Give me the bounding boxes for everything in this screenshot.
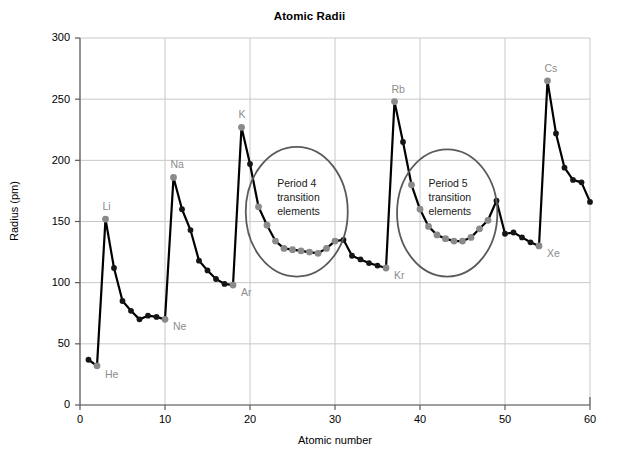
data-point: [332, 238, 339, 245]
data-point: [468, 234, 475, 241]
data-point: [417, 206, 424, 213]
chart-title: Atomic Radii: [0, 10, 619, 22]
element-label-cs: Cs: [545, 62, 558, 74]
annotation-text-line: transition: [429, 191, 472, 203]
x-tick-label: 0: [77, 413, 83, 425]
data-point: [570, 177, 576, 183]
data-point: [86, 357, 92, 363]
data-point: [298, 247, 305, 254]
y-tick-label: 250: [52, 93, 70, 105]
data-point: [128, 308, 134, 314]
element-label-ne: Ne: [173, 320, 187, 332]
data-point: [459, 238, 466, 245]
data-point: [485, 217, 492, 224]
data-point: [137, 316, 143, 322]
data-point: [230, 282, 237, 289]
data-point: [315, 250, 322, 257]
data-point: [102, 216, 109, 223]
data-point: [425, 223, 432, 230]
annotations: Period 4transitionelementsPeriod 5transi…: [246, 147, 498, 277]
data-point: [145, 313, 151, 319]
annotation-text-line: Period 5: [429, 177, 468, 189]
data-point: [154, 314, 160, 320]
data-points: [86, 77, 593, 369]
element-label-he: He: [105, 368, 119, 380]
radius-polyline: [89, 81, 591, 366]
data-point: [238, 124, 245, 131]
data-point: [111, 265, 117, 271]
element-label-na: Na: [171, 158, 185, 170]
plot-canvas: 0501001502002503000102030405060 Period 4…: [0, 0, 619, 471]
x-tick-label: 40: [414, 413, 426, 425]
data-point: [528, 239, 534, 245]
data-point: [442, 235, 449, 242]
data-point: [391, 98, 398, 105]
data-point: [323, 245, 330, 252]
y-tick-label: 100: [52, 276, 70, 288]
data-point: [281, 245, 288, 252]
data-point: [553, 131, 559, 137]
data-point: [196, 258, 202, 264]
x-tick-label: 30: [329, 413, 341, 425]
x-tick-label: 20: [244, 413, 256, 425]
x-tick-label: 50: [499, 413, 511, 425]
data-point: [179, 206, 185, 212]
y-tick-label: 50: [58, 337, 70, 349]
data-point: [162, 316, 169, 323]
data-point: [544, 77, 551, 84]
data-point: [205, 268, 211, 274]
data-point: [213, 276, 219, 282]
atomic-radii-chart: Atomic Radii Radius (pm) Atomic number 0…: [0, 0, 619, 471]
data-point: [120, 298, 126, 304]
y-tick-label: 0: [64, 398, 70, 410]
annotation-text-line: Period 4: [277, 177, 316, 189]
y-tick-label: 300: [52, 31, 70, 43]
data-point: [579, 179, 585, 185]
data-point: [536, 243, 543, 250]
data-point: [366, 260, 372, 266]
data-line: [89, 81, 591, 366]
element-label-li: Li: [103, 200, 111, 212]
tick-labels: 0501001502002503000102030405060: [52, 31, 596, 425]
data-point: [587, 199, 593, 205]
element-label-rb: Rb: [392, 83, 406, 95]
data-point: [502, 231, 508, 237]
data-point: [188, 227, 194, 233]
annotation-text-line: transition: [277, 191, 320, 203]
data-point: [170, 174, 177, 181]
y-axis-label: Radius (pm): [8, 161, 20, 261]
x-tick-label: 60: [584, 413, 596, 425]
data-point: [358, 257, 364, 263]
data-point: [375, 263, 381, 269]
grid-lines: [80, 38, 590, 405]
annotation-text-line: elements: [429, 205, 472, 217]
y-tick-label: 150: [52, 215, 70, 227]
element-label-xe: Xe: [547, 247, 560, 259]
data-point: [349, 253, 355, 259]
data-point: [519, 235, 525, 241]
element-label-k: K: [239, 108, 246, 120]
x-tick-label: 10: [159, 413, 171, 425]
data-point: [222, 281, 228, 287]
data-point: [400, 139, 406, 145]
element-label-kr: Kr: [394, 269, 405, 281]
data-point: [408, 181, 415, 188]
y-tick-label: 200: [52, 154, 70, 166]
data-point: [562, 165, 568, 171]
data-point: [247, 161, 253, 167]
annotation-text-line: elements: [277, 205, 320, 217]
data-point: [306, 249, 313, 256]
data-point: [434, 232, 441, 239]
data-point: [476, 225, 483, 232]
data-point: [289, 246, 296, 253]
element-label-ar: Ar: [241, 286, 252, 298]
data-point: [272, 238, 279, 245]
data-point: [264, 222, 271, 229]
axes: [75, 38, 590, 410]
data-point: [94, 362, 101, 369]
data-point: [511, 230, 517, 236]
data-point: [451, 238, 458, 245]
data-point: [255, 203, 262, 210]
x-axis-label: Atomic number: [80, 434, 590, 446]
data-point: [383, 265, 390, 272]
